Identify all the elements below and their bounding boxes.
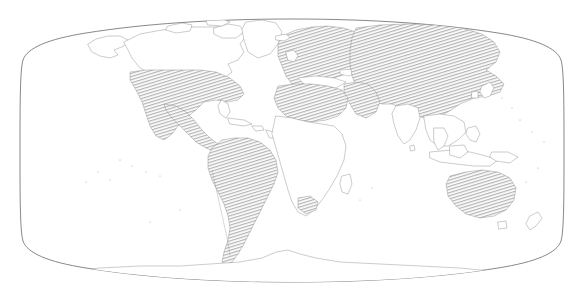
world-map-figure [0, 0, 584, 301]
landmass-sri-lanka [410, 145, 415, 151]
landmass-korea [472, 91, 478, 98]
landmass-tasmania [498, 221, 507, 229]
map-canvas [0, 0, 584, 301]
